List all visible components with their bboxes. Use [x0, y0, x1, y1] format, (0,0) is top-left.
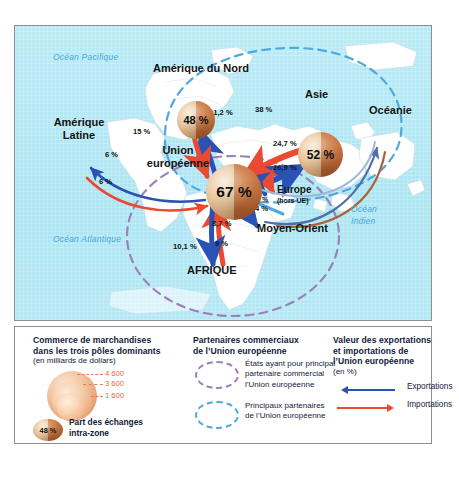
label-europe-hors-ue-line1: Europe [277, 184, 311, 197]
legend-title-partenaires-line1: Partenaires commerciaux [193, 335, 325, 346]
label-asie: Asie [305, 88, 328, 101]
legend-column-commerce: Commerce de marchandises dans les trois … [33, 335, 185, 367]
label-amerique-du-nord: Amérique du Nord [153, 62, 249, 75]
legend-subtitle-valeur: (en %) [333, 367, 453, 377]
legend-intra-zone-value: 48 % [33, 419, 63, 441]
key-importations-arrow-icon [337, 403, 397, 413]
legend-title-valeur-line2: et importations de [333, 346, 453, 357]
label-europe-hors-ue-line2: (hors UE) [277, 196, 309, 205]
sphere-asie: 52 % [298, 132, 343, 177]
figure-root: Océan Pacifique Océan Atlantique Océan I… [0, 0, 459, 488]
legend-title-partenaires-line2: de l’Union européenne [193, 346, 325, 357]
key-principaux-line2: de l’Union européenne [245, 411, 345, 421]
value-flow-amerique-latine-to-ue: 6 % [99, 177, 112, 186]
bubble-3600-value: 3 600 [105, 379, 124, 388]
legend-title-commerce-line1: Commerce de marchandises [33, 335, 185, 346]
sphere-value-union-europeenne: 67 % [206, 164, 262, 220]
value-flow-ue-to-europe: 26,9 % [273, 163, 297, 172]
bubble-scale: 4 600 3 600 1 600 [47, 371, 121, 423]
key-etats-line1: États ayant pour principal [245, 359, 345, 369]
bubble-1600-leader [91, 396, 103, 397]
key-importations-label: Importations [407, 400, 452, 409]
legend-intra-zone-label-line2: intra-zone [69, 428, 143, 439]
ocean-pacifique-label: Océan Pacifique [53, 52, 118, 63]
value-flow-asie-to-ue: 38 % [255, 105, 272, 114]
legend-column-partenaires: Partenaires commerciaux de l’Union europ… [193, 335, 325, 356]
value-flow-ue-to-moyen-orient: 8,7 % [212, 219, 231, 228]
legend-title-valeur-line1: Valeur des exportations [333, 335, 453, 346]
label-union-europeenne-line1: Union [144, 144, 212, 157]
legend-title-commerce-line2: dans les trois pôles dominants [33, 346, 185, 357]
legend-panel: Commerce de marchandises dans les trois … [14, 326, 432, 444]
value-flow-na-to-ue: 15 % [133, 127, 150, 136]
bubble-4600-value: 4 600 [105, 369, 124, 378]
key-etats-partenaire-principal-text: États ayant pour principal partenaire co… [245, 359, 345, 390]
key-principaux-partenaires-text: Principaux partenaires de l’Union europé… [245, 401, 345, 422]
bubble-1600-value: 1 600 [105, 391, 124, 400]
sphere-amerique-du-nord: 48 % [177, 101, 215, 139]
legend-subtitle-commerce: (en milliards de dollars) [33, 356, 185, 366]
sphere-value-asie: 52 % [298, 132, 343, 177]
key-etats-line2: partenaire commercial [245, 369, 345, 379]
key-dashed-ellipse-violet-icon [195, 361, 239, 389]
label-moyen-orient: Moyen-Orient [257, 222, 328, 235]
key-dashed-ellipse-blue-icon [195, 401, 239, 429]
key-etats-line3: l’Union européenne [245, 380, 345, 390]
label-amerique-latine-line2: Latine [37, 129, 121, 142]
value-flow-ue-to-amerique-latine: 6 % [105, 150, 118, 159]
sphere-union-europeenne: 67 % [206, 164, 262, 220]
key-exportations-label: Exportations [407, 382, 453, 391]
value-flow-ue-to-afrique: 9 % [215, 239, 228, 248]
label-afrique: AFRIQUE [187, 264, 237, 277]
label-amerique-latine-line1: Amérique [37, 116, 121, 129]
key-exportations-arrow-icon [341, 385, 397, 395]
value-flow-afrique-to-ue: 10,1 % [173, 242, 197, 251]
legend-sphere-intra-zone: 48 % [33, 419, 63, 441]
sphere-value-amerique-du-nord: 48 % [177, 101, 215, 139]
bubble-3600-leader [83, 384, 103, 385]
legend-intra-zone-label-line1: Part des échanges [69, 417, 143, 428]
ocean-indien-label-line1: Océan [351, 204, 377, 215]
bubble-4600-leader [77, 374, 103, 375]
legend-title-valeur-line3: l’Union européenne [333, 356, 453, 367]
key-principaux-line1: Principaux partenaires [245, 401, 345, 411]
label-oceanie: Océanie [369, 104, 412, 117]
legend-column-valeur: Valeur des exportations et importations … [333, 335, 453, 377]
legend-intra-zone-label: Part des échanges intra-zone [69, 417, 143, 439]
world-map-panel: Océan Pacifique Océan Atlantique Océan I… [14, 25, 432, 321]
ocean-atlantique-label: Océan Atlantique [53, 234, 121, 245]
ocean-indien-label-line2: Indien [351, 216, 375, 227]
value-flow-ue-to-asie: 24,7 % [273, 139, 297, 148]
